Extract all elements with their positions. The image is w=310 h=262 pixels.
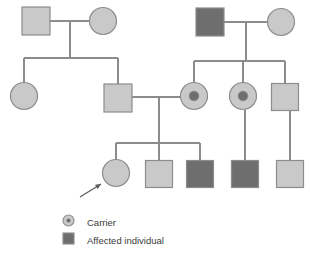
carrier-dot-icon bbox=[238, 91, 248, 101]
legend-carrier: Carrier bbox=[63, 215, 116, 228]
legend-carrier-label: Carrier bbox=[87, 217, 116, 228]
affected-male-square[interactable] bbox=[232, 161, 259, 188]
individual-I-1[interactable] bbox=[22, 7, 50, 35]
individual-I-3[interactable] bbox=[196, 8, 224, 36]
individual-II-5[interactable] bbox=[272, 84, 299, 111]
individual-I-2[interactable] bbox=[90, 8, 117, 35]
individual-II-4[interactable] bbox=[230, 83, 257, 110]
generation-3 bbox=[103, 160, 304, 188]
individual-III-3[interactable] bbox=[187, 161, 214, 188]
legend-affected-label: Affected individual bbox=[87, 235, 164, 246]
affected-male-square[interactable] bbox=[187, 161, 214, 188]
affected-square-icon bbox=[63, 233, 74, 244]
unaffected-male-square[interactable] bbox=[104, 84, 132, 112]
unaffected-female-circle[interactable] bbox=[11, 83, 38, 110]
unaffected-male-square[interactable] bbox=[277, 161, 304, 188]
legend: CarrierAffected individual bbox=[63, 215, 164, 246]
unaffected-male-square[interactable] bbox=[272, 84, 299, 111]
individual-II-2[interactable] bbox=[104, 84, 132, 112]
individual-II-3[interactable] bbox=[181, 83, 208, 110]
affected-male-square[interactable] bbox=[196, 8, 224, 36]
individual-I-4[interactable] bbox=[268, 9, 295, 36]
pedigree-canvas: CarrierAffected individual bbox=[0, 0, 310, 262]
pedigree-chart: CarrierAffected individual bbox=[0, 0, 310, 262]
unaffected-male-square[interactable] bbox=[146, 161, 173, 188]
proband-arrow-layer bbox=[80, 184, 101, 197]
unaffected-female-circle[interactable] bbox=[103, 160, 130, 187]
carrier-dot-icon bbox=[189, 91, 199, 101]
unaffected-female-circle[interactable] bbox=[268, 9, 295, 36]
unaffected-female-circle[interactable] bbox=[90, 8, 117, 35]
individual-III-1[interactable] bbox=[103, 160, 130, 187]
carrier-dot-icon bbox=[67, 219, 71, 223]
individual-III-2[interactable] bbox=[146, 161, 173, 188]
unaffected-male-square[interactable] bbox=[22, 7, 50, 35]
individual-II-1[interactable] bbox=[11, 83, 38, 110]
proband-arrow bbox=[80, 184, 101, 197]
individual-III-5[interactable] bbox=[277, 161, 304, 188]
legend-affected: Affected individual bbox=[63, 233, 164, 246]
individual-III-4[interactable] bbox=[232, 161, 259, 188]
